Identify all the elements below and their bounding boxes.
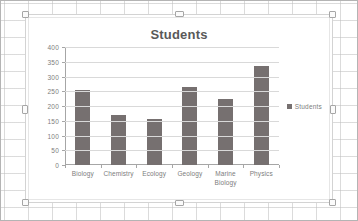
y-axis-tickmark (62, 150, 65, 151)
legend-swatch-icon (287, 104, 292, 109)
gridline (65, 136, 279, 137)
x-axis-tick-label: Physics (243, 169, 279, 187)
y-axis-tick-label: 50 (51, 147, 59, 154)
resize-handle-bottom-center[interactable] (175, 200, 184, 206)
y-axis-tick-label: 350 (48, 58, 59, 65)
x-axis-tick-label: Ecology (136, 169, 172, 187)
resize-handle-bottom-right[interactable] (329, 199, 336, 206)
y-axis-tick-label: 400 (48, 44, 59, 51)
y-axis-tickmark (62, 62, 65, 63)
chart-plot-wrapper: 400350300250200150100500 BiologyChemistr… (36, 47, 324, 196)
x-axis-tickmark (172, 165, 173, 168)
x-axis-tick-label: Marine Biology (208, 169, 244, 187)
gridline (65, 106, 279, 107)
gridline (65, 77, 279, 78)
chart-legend[interactable]: Students (287, 103, 322, 110)
bar-biology[interactable] (75, 90, 90, 165)
resize-handle-middle-left[interactable] (22, 105, 28, 114)
y-axis-tick-label: 200 (48, 103, 59, 110)
y-axis-tick-label: 300 (48, 73, 59, 80)
y-axis-tickmark (62, 91, 65, 92)
x-axis-tickmark (136, 165, 137, 168)
x-axis-category-labels[interactable]: BiologyChemistryEcologyGeologyMarine Bio… (65, 169, 279, 187)
y-axis-tickmark (62, 136, 65, 137)
plot-area[interactable] (65, 47, 279, 165)
y-axis[interactable]: 400350300250200150100500 (36, 47, 62, 165)
gridline (65, 121, 279, 122)
x-axis-tick-label: Biology (65, 169, 101, 187)
y-axis-tick-label: 250 (48, 88, 59, 95)
x-axis-tick-label: Geology (172, 169, 208, 187)
y-axis-tick-label: 100 (48, 132, 59, 139)
resize-handle-top-right[interactable] (329, 11, 336, 18)
y-axis-tickmark (62, 77, 65, 78)
resize-handle-top-left[interactable] (22, 11, 29, 18)
x-axis-tickmark (243, 165, 244, 168)
chart-title[interactable]: Students (26, 27, 332, 42)
gridline (65, 150, 279, 151)
resize-handle-middle-right[interactable] (330, 105, 336, 114)
bar-marine-biology[interactable] (218, 99, 233, 165)
x-axis-tickmark (65, 165, 66, 168)
resize-handle-bottom-left[interactable] (22, 199, 29, 206)
resize-handle-top-center[interactable] (175, 11, 184, 17)
x-axis-tickmark (208, 165, 209, 168)
y-axis-tick-label: 150 (48, 117, 59, 124)
spreadsheet-canvas: Students 400350300250200150100500 Biolog… (0, 0, 358, 221)
x-axis-tick-label: Chemistry (101, 169, 137, 187)
y-axis-tickmark (62, 121, 65, 122)
x-axis-tickmark (279, 165, 280, 168)
gridline (65, 47, 279, 48)
gridline (65, 62, 279, 63)
chart-object[interactable]: Students 400350300250200150100500 Biolog… (25, 14, 333, 203)
bar-chemistry[interactable] (111, 115, 126, 165)
y-axis-tick-label: 0 (55, 162, 59, 169)
gridline (65, 91, 279, 92)
bar-ecology[interactable] (147, 119, 162, 165)
y-axis-tickmark (62, 47, 65, 48)
bar-geology[interactable] (182, 87, 197, 165)
y-axis-tickmark (62, 106, 65, 107)
x-axis-tickmark (101, 165, 102, 168)
legend-entry-label: Students (295, 103, 322, 110)
